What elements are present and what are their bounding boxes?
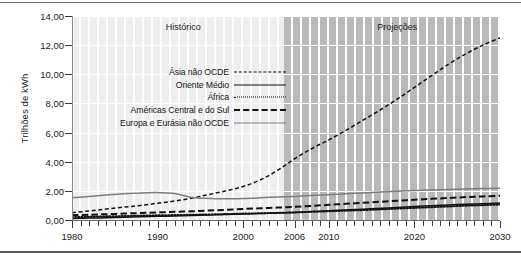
legend-item: Américas Central e do Sul [64, 104, 286, 117]
y-tick-mark [65, 45, 72, 46]
x-tick-label: 2006 [284, 231, 305, 242]
x-tick-label: 1980 [61, 231, 82, 242]
y-tick-label: 4,00 [16, 156, 64, 167]
legend-item: Ásia não OCDE [64, 66, 286, 79]
x-tick-mark [166, 221, 167, 226]
y-tick-mark [65, 162, 72, 163]
x-tick-mark [158, 221, 159, 228]
x-tick-mark [235, 221, 236, 226]
x-tick-mark [303, 221, 304, 226]
x-tick-label: 2010 [318, 231, 339, 242]
y-tick-label: 8,00 [16, 98, 64, 109]
legend-label: Ásia não OCDE [169, 67, 229, 77]
x-tick-mark [115, 221, 116, 226]
x-tick-mark [106, 221, 107, 226]
x-tick-mark [89, 221, 90, 226]
x-tick-mark [397, 221, 398, 226]
x-tick-label: 2020 [404, 231, 425, 242]
legend-swatch-asia-nao-ocde [234, 67, 286, 77]
legend-label: Europa e Eurásia não OCDE [120, 118, 229, 128]
x-tick-mark [389, 221, 390, 226]
x-tick-mark [81, 221, 82, 226]
x-tick-mark [414, 221, 415, 228]
chart-figure: Trilhões de kWh 0,002,004,006,008,0010,0… [0, 0, 521, 257]
x-tick-mark [354, 221, 355, 226]
legend-item: África [64, 91, 286, 104]
y-tick-label: 12,00 [16, 40, 64, 51]
x-tick-mark [363, 221, 364, 226]
series-line [72, 188, 500, 199]
series-line [72, 203, 500, 218]
x-tick-mark [175, 221, 176, 226]
x-tick-mark [483, 221, 484, 226]
legend-label: Américas Central e do Sul [131, 105, 229, 115]
figure-top-rule [0, 2, 521, 3]
legend-swatch-americas-central-e-do-sul [234, 105, 286, 115]
x-tick-mark [295, 221, 296, 228]
x-tick-mark [260, 221, 261, 226]
y-tick-mark [65, 191, 72, 192]
region-label-projeções: Projeções [377, 22, 417, 32]
chart-legend: Ásia não OCDE Oriente Médio África Améri… [64, 66, 286, 129]
x-tick-mark [269, 221, 270, 226]
x-tick-mark [218, 221, 219, 226]
y-tick-mark [65, 16, 72, 17]
y-tick-label: 0,00 [16, 215, 64, 226]
x-tick-mark [380, 221, 381, 226]
x-tick-mark [491, 221, 492, 226]
legend-item: Europa e Eurásia não OCDE [64, 116, 286, 129]
y-tick-mark [65, 133, 72, 134]
y-tick-mark [65, 220, 72, 221]
x-tick-mark [329, 221, 330, 228]
x-tick-mark [183, 221, 184, 226]
y-tick-label: 14,00 [16, 11, 64, 22]
x-tick-mark [466, 221, 467, 226]
x-tick-mark [372, 221, 373, 226]
x-tick-label: 1990 [147, 231, 168, 242]
y-axis-ticks: 0,002,004,006,008,0010,0012,0014,00 [0, 0, 64, 257]
x-tick-label: 2030 [489, 231, 510, 242]
x-tick-mark [320, 221, 321, 226]
y-tick-label: 10,00 [16, 69, 64, 80]
x-tick-mark [149, 221, 150, 226]
x-tick-mark [132, 221, 133, 226]
x-tick-mark [252, 221, 253, 226]
x-tick-mark [140, 221, 141, 226]
x-tick-mark [209, 221, 210, 226]
x-tick-mark [440, 221, 441, 226]
legend-swatch-africa [234, 92, 286, 102]
x-tick-mark [243, 221, 244, 228]
x-tick-mark [457, 221, 458, 226]
x-tick-mark [200, 221, 201, 226]
region-label-histórico: Histórico [166, 22, 201, 32]
x-tick-mark [312, 221, 313, 226]
legend-swatch-oriente-medio [234, 80, 286, 90]
x-tick-mark [192, 221, 193, 226]
legend-item: Oriente Médio [64, 79, 286, 92]
x-tick-mark [277, 221, 278, 226]
x-tick-mark [98, 221, 99, 226]
x-tick-mark [423, 221, 424, 226]
legend-label: África [207, 92, 229, 102]
x-tick-mark [72, 221, 73, 228]
x-tick-mark [286, 221, 287, 226]
x-tick-mark [226, 221, 227, 226]
x-tick-mark [337, 221, 338, 226]
x-tick-mark [500, 221, 501, 228]
legend-label: Oriente Médio [176, 80, 229, 90]
x-tick-mark [432, 221, 433, 226]
y-tick-label: 6,00 [16, 127, 64, 138]
legend-swatch-europa-e-eurasia-nao-ocde [234, 118, 286, 128]
x-tick-mark [123, 221, 124, 226]
x-tick-mark [406, 221, 407, 226]
x-tick-label: 2000 [233, 231, 254, 242]
x-tick-mark [474, 221, 475, 226]
figure-bottom-rule [0, 251, 521, 253]
x-tick-mark [449, 221, 450, 226]
x-tick-mark [346, 221, 347, 226]
y-tick-label: 2,00 [16, 185, 64, 196]
